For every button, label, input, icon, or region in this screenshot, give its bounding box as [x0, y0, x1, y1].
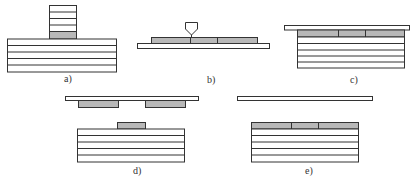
panel-e-label: e) — [305, 166, 313, 176]
panel-d-label: d) — [133, 166, 141, 176]
panel-d — [66, 97, 199, 163]
layered-base — [8, 39, 117, 72]
panel-b — [138, 23, 270, 49]
base-plate — [138, 44, 270, 49]
process-diagram — [0, 0, 415, 181]
gray-tiles — [298, 30, 405, 37]
welding-tool-icon — [186, 23, 198, 38]
panel-b-label: b) — [207, 75, 215, 85]
layered-base — [298, 37, 405, 68]
panel-c-label: c) — [350, 75, 358, 85]
layered-base — [252, 129, 359, 162]
gray-tile-right — [146, 101, 186, 108]
gray-tiles — [252, 123, 359, 130]
gray-tiles — [152, 38, 258, 44]
top-plate — [238, 97, 373, 101]
top-plate — [66, 97, 199, 101]
gray-tile-center — [118, 123, 146, 130]
panel-a — [8, 6, 117, 73]
stacked-column — [50, 6, 77, 40]
panel-a-label: a) — [64, 74, 72, 84]
top-plate — [285, 26, 410, 31]
panel-e — [238, 97, 373, 163]
gray-tile — [50, 32, 77, 40]
gray-tile-left — [79, 101, 119, 108]
panel-c — [285, 26, 410, 69]
layered-base — [78, 129, 185, 162]
